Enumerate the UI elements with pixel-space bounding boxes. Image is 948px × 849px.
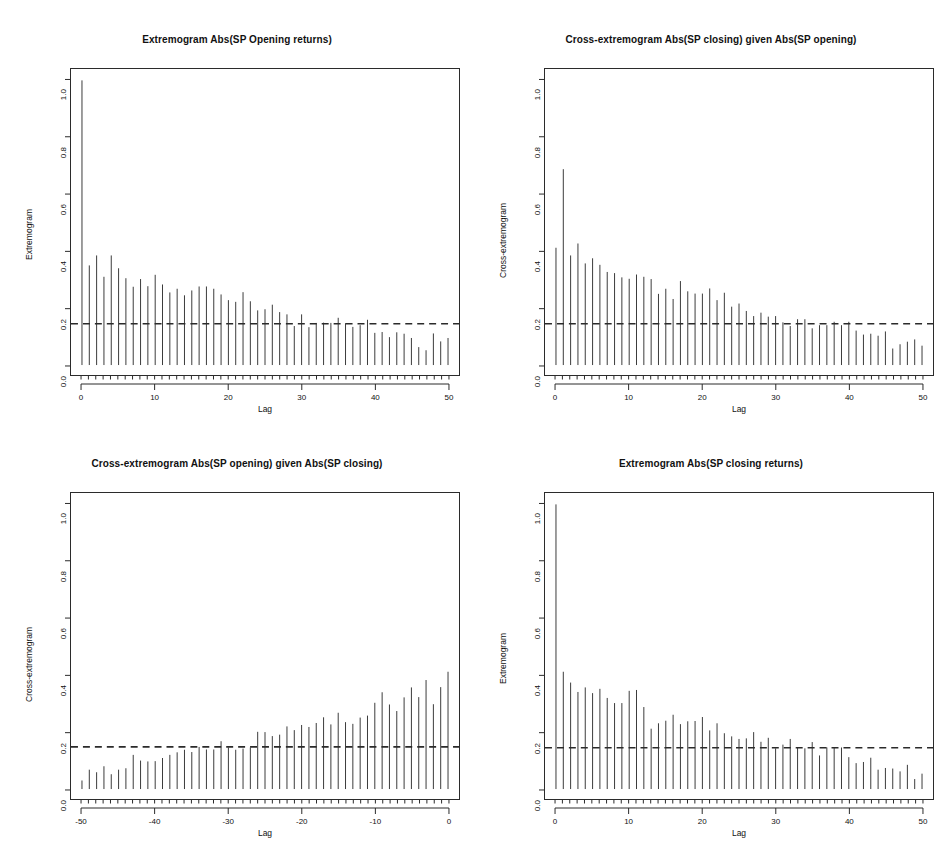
- x-tick-label: 50: [903, 393, 943, 402]
- bars-layer: [545, 493, 933, 799]
- x-tick-label: 0: [429, 817, 469, 826]
- x-tick-label: 50: [429, 393, 469, 402]
- y-tick-label: 0.8: [533, 571, 542, 582]
- x-tick-label: 0: [535, 817, 575, 826]
- x-tick-label: 10: [609, 393, 649, 402]
- y-tick-label: 0.6: [59, 204, 68, 215]
- y-tick-label: 0.8: [533, 147, 542, 158]
- panel-title: Extremogram Abs(SP closing returns): [474, 458, 948, 469]
- panel-title: Cross-extremogram Abs(SP opening) given …: [0, 458, 474, 469]
- x-tick-label: -20: [282, 817, 322, 826]
- x-tick-label: -40: [135, 817, 175, 826]
- x-tick-label: -30: [208, 817, 248, 826]
- y-tick-label: 1.0: [533, 514, 542, 525]
- y-tick-label: 0.2: [533, 743, 542, 754]
- panel-title: Extremogram Abs(SP Opening returns): [0, 34, 474, 45]
- x-tick-label: -10: [355, 817, 395, 826]
- x-tick-label: 50: [903, 817, 943, 826]
- y-tick-label: 1.0: [59, 90, 68, 101]
- panel-title: Cross-extremogram Abs(SP closing) given …: [474, 34, 948, 45]
- y-axis-label: Cross-extremogram: [498, 203, 508, 278]
- y-tick-label: 0.4: [533, 685, 542, 696]
- extremogram-figure: Extremogram Abs(SP Opening returns) Extr…: [0, 0, 948, 849]
- x-tick-label: 0: [61, 393, 101, 402]
- y-tick-label: 1.0: [59, 514, 68, 525]
- x-tick-label: 20: [682, 393, 722, 402]
- x-tick-label: 10: [135, 393, 175, 402]
- y-tick-label: 0.2: [59, 319, 68, 330]
- bars-layer: [71, 69, 459, 375]
- y-tick-label: 0.2: [59, 743, 68, 754]
- bars-layer: [71, 493, 459, 799]
- y-tick-label: 0.6: [59, 628, 68, 639]
- y-tick-label: 0.4: [533, 261, 542, 272]
- y-tick-label: 0.0: [533, 376, 542, 387]
- y-tick-label: 0.0: [59, 376, 68, 387]
- x-tick-label: 40: [829, 817, 869, 826]
- panel-cross-opening-given-closing: Cross-extremogram Abs(SP opening) given …: [0, 424, 474, 848]
- plot-area: [544, 492, 934, 800]
- y-tick-label: 0.4: [59, 261, 68, 272]
- x-tick-label: 0: [535, 393, 575, 402]
- y-axis-label: Cross-extremogram: [24, 627, 34, 702]
- x-tick-label: 40: [829, 393, 869, 402]
- y-tick-label: 0.6: [533, 204, 542, 215]
- y-tick-label: 0.0: [533, 800, 542, 811]
- y-tick-label: 1.0: [533, 90, 542, 101]
- plot-area: [70, 68, 460, 376]
- x-tick-label: 10: [609, 817, 649, 826]
- panel-cross-closing-given-opening: Cross-extremogram Abs(SP closing) given …: [474, 0, 948, 424]
- y-tick-label: 0.0: [59, 800, 68, 811]
- y-axis-label: Extremogram: [498, 633, 508, 684]
- x-tick-label: 30: [756, 817, 796, 826]
- y-tick-label: 0.8: [59, 147, 68, 158]
- y-tick-label: 0.8: [59, 571, 68, 582]
- x-tick-label: 30: [282, 393, 322, 402]
- x-axis-label: Lag: [70, 828, 460, 838]
- x-axis-label: Lag: [544, 828, 934, 838]
- x-axis-label: Lag: [544, 404, 934, 414]
- x-tick-label: 20: [208, 393, 248, 402]
- plot-area: [544, 68, 934, 376]
- y-tick-label: 0.6: [533, 628, 542, 639]
- x-tick-label: -50: [61, 817, 101, 826]
- y-axis-label: Extremogram: [24, 209, 34, 260]
- plot-area: [70, 492, 460, 800]
- panel-extremogram-closing: Extremogram Abs(SP closing returns) Extr…: [474, 424, 948, 848]
- x-tick-label: 40: [355, 393, 395, 402]
- x-tick-label: 30: [756, 393, 796, 402]
- x-axis-label: Lag: [70, 404, 460, 414]
- y-tick-label: 0.2: [533, 319, 542, 330]
- x-tick-label: 20: [682, 817, 722, 826]
- y-tick-label: 0.4: [59, 685, 68, 696]
- panel-extremogram-opening: Extremogram Abs(SP Opening returns) Extr…: [0, 0, 474, 424]
- bars-layer: [545, 69, 933, 375]
